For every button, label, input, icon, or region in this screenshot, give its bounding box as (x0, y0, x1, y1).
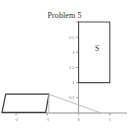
y-tick-label: 1.5 (61, 65, 75, 70)
x-tick-label: -1 (39, 117, 55, 122)
parallelogram-dark (2, 94, 49, 112)
y-tick-label: 0.5 (61, 95, 75, 100)
y-tick-label: 1 (61, 80, 75, 85)
plot-figure: Problem 5 -2-1010.511.522.5 S (0, 0, 129, 133)
shapes-group (2, 22, 110, 113)
x-tick-label: 1 (102, 117, 118, 122)
y-tick-label: 2.5 (61, 35, 75, 40)
y-tick-label: 2 (61, 50, 75, 55)
x-tick-label: -2 (8, 117, 24, 122)
region-label-s: S (95, 45, 99, 53)
x-tick-label: 0 (71, 117, 87, 122)
